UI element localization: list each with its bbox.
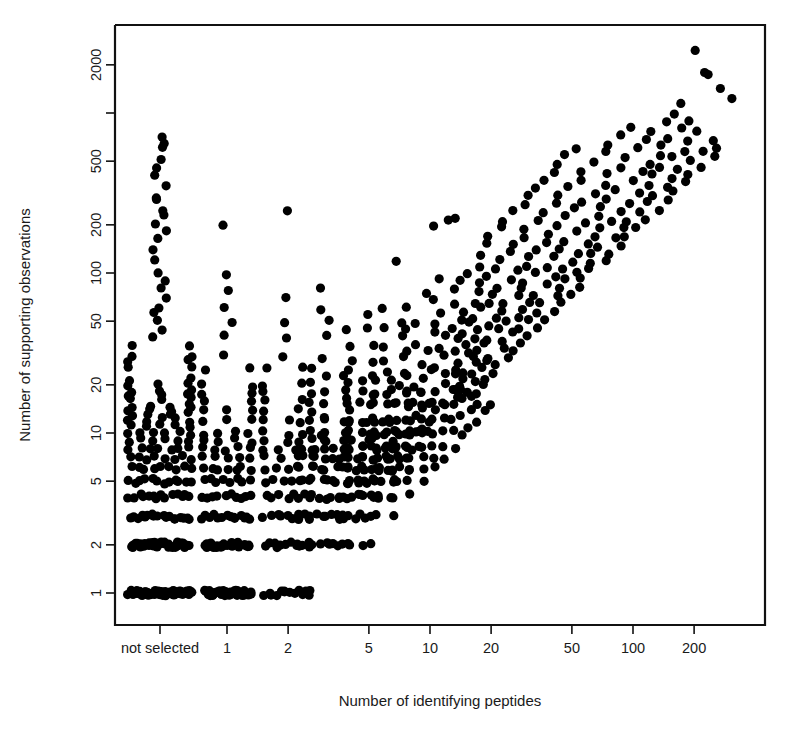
data-point bbox=[237, 477, 246, 486]
data-point bbox=[572, 227, 581, 236]
data-point bbox=[494, 324, 503, 333]
data-point bbox=[260, 395, 269, 404]
data-point bbox=[404, 453, 413, 462]
data-point bbox=[540, 315, 549, 324]
data-point bbox=[498, 337, 507, 346]
data-point bbox=[378, 304, 387, 313]
data-point bbox=[165, 403, 174, 412]
data-point bbox=[556, 298, 565, 307]
data-point bbox=[343, 399, 352, 408]
data-point bbox=[625, 199, 634, 208]
data-point bbox=[435, 274, 444, 283]
data-point bbox=[453, 359, 462, 368]
data-point bbox=[329, 444, 338, 453]
data-point bbox=[224, 286, 233, 295]
data-point bbox=[558, 264, 567, 273]
data-point bbox=[417, 425, 426, 434]
data-point bbox=[449, 426, 458, 435]
data-point bbox=[187, 477, 196, 486]
data-point bbox=[341, 385, 350, 394]
data-point bbox=[307, 434, 316, 443]
data-point bbox=[371, 376, 380, 385]
y-tick-label: 1 bbox=[88, 589, 104, 597]
data-point bbox=[491, 360, 500, 369]
data-point bbox=[484, 321, 493, 330]
data-point bbox=[521, 200, 530, 209]
data-point bbox=[699, 147, 708, 156]
data-point bbox=[140, 474, 149, 483]
data-point bbox=[319, 466, 328, 475]
data-point bbox=[224, 465, 233, 474]
data-point bbox=[646, 160, 655, 169]
data-point bbox=[542, 238, 551, 247]
data-point bbox=[307, 540, 316, 549]
x-tick-label: 2 bbox=[284, 640, 292, 656]
data-point bbox=[339, 436, 348, 445]
data-point bbox=[655, 206, 664, 215]
data-point bbox=[638, 167, 647, 176]
data-point bbox=[686, 156, 695, 165]
y-tick-label: 200 bbox=[88, 213, 104, 237]
data-point bbox=[343, 464, 352, 473]
data-point bbox=[403, 476, 412, 485]
data-point bbox=[389, 511, 398, 520]
data-point bbox=[348, 356, 357, 365]
data-point bbox=[387, 376, 396, 385]
data-point bbox=[340, 445, 349, 454]
data-point bbox=[172, 465, 181, 474]
data-point bbox=[620, 232, 629, 241]
data-point bbox=[458, 430, 467, 439]
data-point bbox=[441, 379, 450, 388]
y-tick-label: 2000 bbox=[88, 49, 104, 81]
data-point bbox=[524, 252, 533, 261]
data-point bbox=[372, 464, 381, 473]
data-point bbox=[531, 268, 540, 277]
data-point bbox=[294, 404, 303, 413]
data-point bbox=[307, 408, 316, 417]
data-point bbox=[138, 443, 147, 452]
data-points-layer bbox=[123, 46, 737, 601]
data-point bbox=[411, 319, 420, 328]
data-point bbox=[262, 363, 271, 372]
data-point bbox=[584, 264, 593, 273]
data-point bbox=[509, 240, 518, 249]
data-point bbox=[539, 176, 548, 185]
data-point bbox=[185, 515, 194, 524]
data-point bbox=[341, 428, 350, 437]
data-point bbox=[518, 305, 527, 314]
data-point bbox=[667, 174, 676, 183]
data-point bbox=[491, 264, 500, 273]
data-point bbox=[431, 387, 440, 396]
data-point bbox=[358, 386, 367, 395]
data-point bbox=[438, 399, 447, 408]
data-point bbox=[248, 382, 257, 391]
data-point bbox=[586, 249, 595, 258]
data-point bbox=[213, 429, 222, 438]
data-point bbox=[616, 163, 625, 172]
data-point bbox=[320, 428, 329, 437]
data-point bbox=[635, 189, 644, 198]
data-point bbox=[156, 462, 165, 471]
x-tick-label: not selected bbox=[121, 640, 199, 656]
data-point bbox=[566, 290, 575, 299]
data-point bbox=[508, 346, 517, 355]
data-point bbox=[603, 140, 612, 149]
data-point bbox=[272, 464, 281, 473]
data-point bbox=[532, 245, 541, 254]
data-point bbox=[158, 133, 167, 142]
data-point bbox=[245, 363, 254, 372]
data-point bbox=[488, 369, 497, 378]
x-tick-label: 1 bbox=[223, 640, 231, 656]
x-tick-label: 50 bbox=[564, 640, 580, 656]
data-point bbox=[519, 225, 528, 234]
data-point bbox=[550, 168, 559, 177]
data-point bbox=[360, 476, 369, 485]
data-point bbox=[213, 465, 222, 474]
data-point bbox=[646, 127, 655, 136]
data-point bbox=[258, 513, 267, 522]
data-point bbox=[259, 415, 268, 424]
data-point bbox=[430, 462, 439, 471]
data-point bbox=[199, 464, 208, 473]
data-point bbox=[345, 540, 354, 549]
data-point bbox=[184, 492, 193, 501]
